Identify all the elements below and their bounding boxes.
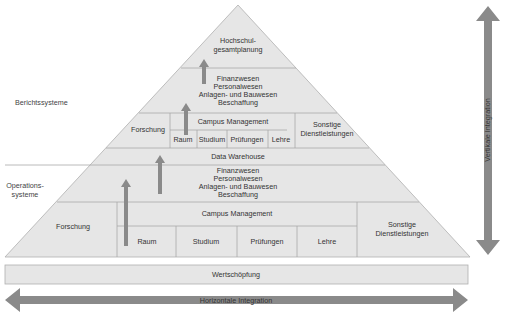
value-creation-label: Wertschöpfung — [212, 270, 260, 279]
reporting-admin-4: Beschaffung — [218, 98, 258, 107]
data-warehouse-label: Data Warehouse — [211, 152, 265, 161]
reporting-systems-label: Berichtssysteme — [15, 98, 68, 107]
integration-pyramid-diagram: Berichtssysteme Operations- systeme Hoch… — [0, 0, 505, 319]
operations-campus-management: Campus Management — [202, 209, 273, 218]
reporting-other-1: Sonstige — [313, 120, 341, 129]
reporting-campus-studium: Studium — [199, 135, 225, 144]
operations-systems-label-1: Operations- — [6, 181, 44, 190]
reporting-campus-pruefungen: Prüfungen — [230, 135, 263, 144]
horizontal-integration-label: Horizontale Integration — [200, 296, 272, 305]
operations-systems-label-2: systeme — [12, 190, 39, 199]
operations-campus-raum: Raum — [137, 237, 156, 246]
operations-campus-studium: Studium — [193, 237, 219, 246]
top-layer-line-1: Hochschul- — [220, 36, 257, 45]
vertical-integration-label: Vertikale Integration — [483, 98, 492, 162]
operations-campus-lehre: Lehre — [318, 237, 336, 246]
operations-research: Forschung — [56, 222, 90, 231]
reporting-campus-management: Campus Management — [198, 117, 269, 126]
reporting-campus-lehre: Lehre — [272, 135, 290, 144]
top-layer-line-2: gesamtplanung — [213, 45, 262, 54]
operations-other-1: Sonstige — [388, 220, 416, 229]
reporting-research: Forschung — [131, 125, 165, 134]
reporting-campus-raum: Raum — [173, 135, 192, 144]
reporting-other-2: Dienstleistungen — [300, 129, 353, 138]
operations-admin-4: Beschaffung — [218, 190, 258, 199]
operations-other-2: Dienstleistungen — [375, 229, 428, 238]
operations-campus-pruefungen: Prüfungen — [250, 237, 283, 246]
